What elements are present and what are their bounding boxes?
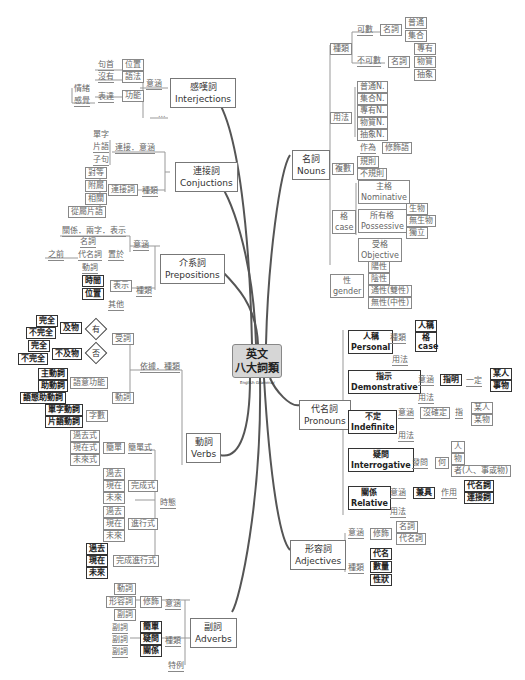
interjection-box-1[interactable]: 位置 — [122, 59, 144, 71]
verbs-perfect-item-1[interactable]: 過去 — [103, 468, 125, 480]
adverbs-modify-item-3[interactable]: 副詞 — [114, 609, 136, 621]
pronouns-interrogative[interactable]: 疑問 Interrogative — [348, 448, 414, 472]
nouns-modifier[interactable]: 修飾語 — [382, 142, 412, 154]
nouns-countable-item-1[interactable]: 普通 — [405, 17, 427, 29]
verbs-prog-item-1[interactable]: 過去 — [103, 506, 125, 518]
nouns-plural-item-2[interactable]: 不規則 — [357, 168, 387, 180]
verbs-trans-item-1[interactable]: 完全 — [36, 315, 58, 327]
pronouns-inter-item-1[interactable]: 人 — [451, 441, 465, 453]
nouns-possessive-item-2[interactable]: 無生物 — [406, 215, 436, 227]
topic-prepositions[interactable]: 介系詞 Prepositions — [160, 254, 225, 284]
nouns-plural-item-1[interactable]: 規則 — [357, 156, 379, 168]
verbs-prog-item-2[interactable]: 現在 — [103, 518, 125, 530]
verbs-perfect-item-2[interactable]: 現在 — [103, 480, 125, 492]
pronouns-relative[interactable]: 關係 Relative — [348, 486, 391, 510]
verbs-count[interactable]: 字數 — [86, 410, 108, 422]
verbs-function[interactable]: 語意功能 — [70, 377, 108, 389]
verbs-intransitive[interactable]: 不及物 — [52, 348, 82, 360]
verbs-verb[interactable]: 動詞 — [112, 392, 134, 404]
central-topic[interactable]: 英文 八大詞類 — [232, 344, 282, 378]
conj-type-box[interactable]: 連接詞 — [108, 184, 138, 196]
adjectives-modify[interactable]: 修飾 — [370, 528, 392, 540]
prep-show-item-2[interactable]: 位置 — [82, 288, 104, 300]
topic-interjections[interactable]: 感嘆詞 Interjections — [170, 78, 236, 108]
pronouns-dual[interactable]: 兼具 — [413, 487, 435, 499]
nouns-uncountable-item-1[interactable]: 專有 — [414, 43, 436, 55]
pronouns-personal[interactable]: 人稱 Personal — [348, 330, 393, 354]
adverbs-modify[interactable]: 修飾 — [140, 596, 162, 608]
nouns-objective[interactable]: 受格 Objective — [358, 238, 402, 262]
interjection-box-3[interactable]: 功能 — [122, 90, 144, 102]
pronouns-specify[interactable]: 指明 — [440, 374, 462, 386]
topic-nouns[interactable]: 名詞 Nouns — [292, 150, 330, 180]
verbs-function-item-2[interactable]: 助動詞 — [38, 380, 68, 392]
verbs-simple-item-2[interactable]: 現在式 — [70, 442, 100, 454]
verbs-transitive[interactable]: 及物 — [60, 322, 82, 334]
nouns-kind[interactable]: 種類 — [330, 43, 352, 55]
verbs-perfect[interactable]: 完成式 — [128, 480, 158, 492]
nouns-usage-item-2[interactable]: 集合N. — [357, 93, 388, 105]
nouns-nominative[interactable]: 主格 Nominative — [358, 180, 410, 204]
nouns-possessive-item-3[interactable]: 獨立 — [406, 227, 428, 239]
conj-type-4[interactable]: 從屬片語 — [68, 206, 106, 218]
verbs-trans-item-2[interactable]: 不完全 — [26, 327, 56, 339]
nouns-uncountable-noun[interactable]: 名詞 — [388, 56, 410, 68]
topic-pronouns[interactable]: 代名詞 Pronouns — [299, 400, 351, 430]
adjectives-type-1[interactable]: 代名 — [370, 548, 392, 560]
verbs-simple-box[interactable]: 簡單 — [103, 442, 125, 454]
verbs-progressive[interactable]: 進行式 — [128, 518, 158, 530]
pronouns-demo-item-2[interactable]: 事物 — [490, 380, 512, 392]
conj-type-1[interactable]: 對等 — [85, 167, 107, 179]
pronouns-rel-item-2[interactable]: 連接詞 — [464, 492, 494, 504]
nouns-possessive-item-1[interactable]: 生物 — [406, 203, 428, 215]
pronouns-uncertain[interactable]: 沒確定 — [420, 407, 450, 419]
pronouns-demo-item-1[interactable]: 某人 — [490, 368, 512, 380]
nouns-usage-item-4[interactable]: 物質N. — [357, 117, 388, 129]
verbs-pp-item-2[interactable]: 現在 — [86, 555, 108, 567]
verbs-function-item-1[interactable]: 主動詞 — [38, 368, 68, 380]
nouns-gender-item-2[interactable]: 陰性 — [368, 273, 390, 285]
adverbs-type-box-1[interactable]: 簡單 — [140, 621, 162, 633]
nouns-gender-item-1[interactable]: 陽性 — [368, 261, 390, 273]
nouns-case[interactable]: 格 case — [332, 210, 356, 234]
verbs-count-item-1[interactable]: 單字動詞 — [45, 404, 83, 416]
nouns-usage-item-1[interactable]: 普通N. — [357, 81, 388, 93]
interjection-box-2[interactable]: 語法 — [122, 71, 144, 83]
verbs-pp-item-3[interactable]: 未來 — [86, 567, 108, 579]
pronouns-indefinite[interactable]: 不定 Indefinite — [348, 410, 397, 434]
nouns-countable-item-2[interactable]: 集合 — [405, 30, 427, 42]
verbs-simple-item-3[interactable]: 未來式 — [70, 454, 100, 466]
pronouns-indef-item-1[interactable]: 某人 — [471, 402, 493, 414]
verbs-prog-item-3[interactable]: 未來 — [103, 530, 125, 542]
adverbs-type-box-2[interactable]: 疑問 — [140, 633, 162, 645]
nouns-uncountable-item-2[interactable]: 物質 — [414, 56, 436, 68]
pronouns-inter-item-2[interactable]: 物 — [451, 453, 465, 465]
nouns-possessive[interactable]: 所有格 Possessive — [358, 209, 407, 233]
nouns-usage-item-5[interactable]: 抽象N. — [357, 129, 388, 141]
topic-adjectives[interactable]: 形容詞 Adjectives — [290, 540, 346, 570]
topic-adverbs[interactable]: 副詞 Adverbs — [190, 618, 237, 648]
verbs-simple-item-1[interactable]: 過去式 — [70, 430, 100, 442]
prep-show-item-1[interactable]: 時間 — [82, 275, 104, 287]
nouns-plural[interactable]: 複數 — [332, 163, 354, 175]
adverbs-type-box-3[interactable]: 關係 — [140, 645, 162, 657]
verbs-perfect-item-3[interactable]: 未來 — [103, 492, 125, 504]
pronouns-demonstrative[interactable]: 指示 Demonstrative — [348, 370, 421, 394]
adjectives-type-2[interactable]: 數量 — [370, 561, 392, 573]
prep-show[interactable]: 表示 — [110, 280, 132, 292]
conj-type-2[interactable]: 附屬 — [85, 180, 107, 192]
verbs-passive[interactable]: 受詞 — [112, 333, 134, 345]
adjectives-type-3[interactable]: 性狀 — [370, 574, 392, 586]
pronouns-inter-item-3[interactable]: 者(人、事或物) — [451, 465, 511, 477]
conj-type-3[interactable]: 相關 — [85, 193, 107, 205]
pronouns-indef-item-2[interactable]: 某物 — [471, 414, 493, 426]
topic-conjunctions[interactable]: 連接詞 Conjuctions — [175, 162, 238, 192]
verbs-perfect-progressive[interactable]: 完成進行式 — [113, 555, 159, 567]
nouns-gender-item-4[interactable]: 無性(中性) — [368, 297, 412, 309]
nouns-uncountable-item-3[interactable]: 抽象 — [414, 69, 436, 81]
verbs-function-item-3[interactable]: 語態助動詞 — [20, 392, 66, 404]
verbs-count-item-2[interactable]: 片語動詞 — [45, 416, 83, 428]
adjectives-modify-item-2[interactable]: 代名詞 — [396, 533, 426, 545]
verbs-intrans-item-1[interactable]: 完全 — [28, 340, 50, 352]
adverbs-modify-item-1[interactable]: 動詞 — [114, 583, 136, 595]
